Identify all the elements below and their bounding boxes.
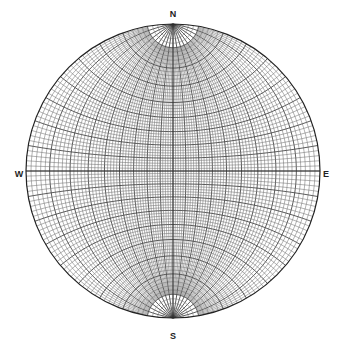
west-label: W [15, 170, 24, 179]
north-label: N [170, 10, 177, 19]
south-label: S [170, 332, 176, 341]
wulff-net [0, 0, 338, 349]
east-label: E [323, 170, 329, 179]
